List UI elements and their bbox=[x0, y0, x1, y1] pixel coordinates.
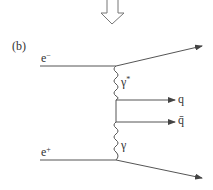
virtual-photon-label-sup: * bbox=[126, 75, 130, 84]
quark-label: q bbox=[178, 93, 184, 105]
virtual-photon-label: γ* bbox=[121, 76, 130, 88]
photon-label-base: γ bbox=[121, 138, 126, 152]
antiquark-label: q̄ bbox=[178, 114, 184, 126]
photon-label: γ bbox=[121, 139, 126, 151]
electron-outgoing-line bbox=[116, 46, 202, 66]
photon-line bbox=[114, 122, 118, 160]
down-arrow-icon bbox=[101, 0, 124, 24]
electron-label-sup: − bbox=[46, 51, 51, 60]
electron-label: e− bbox=[41, 52, 51, 64]
panel-label: (b) bbox=[12, 40, 26, 52]
positron-outgoing-line bbox=[116, 160, 202, 178]
virtual-photon-line bbox=[114, 66, 118, 100]
positron-label-sup: + bbox=[46, 145, 51, 154]
positron-label: e+ bbox=[41, 146, 51, 158]
